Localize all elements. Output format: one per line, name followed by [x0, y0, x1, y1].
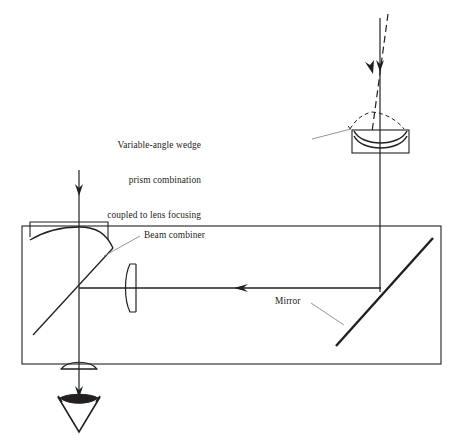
optical-diagram-figure: Variable-angle wedge prism combination c… [0, 0, 458, 443]
label-wedge-prism: Variable-angle wedge prism combination c… [61, 117, 201, 245]
leader-line-mirror [311, 303, 344, 325]
input-ray-right-dashed [365, 14, 388, 132]
enclosure-outline [22, 226, 441, 364]
label-mirror: Mirror [275, 296, 301, 308]
wedge-prism-lens-assembly [348, 112, 409, 153]
beam-combiner [33, 248, 113, 335]
label-wedge-prism-line1: Variable-angle wedge [61, 140, 201, 152]
eye-detector [58, 394, 100, 432]
label-beam-combiner: Beam combiner [144, 230, 205, 242]
label-wedge-prism-line3: coupled to lens focusing [61, 210, 201, 222]
cavity-ray-horizontal [79, 284, 381, 292]
input-ray-right-solid [376, 18, 384, 292]
leader-line-wedge-prism [312, 129, 351, 139]
fold-mirror [336, 238, 433, 346]
label-wedge-prism-line2: prism combination [61, 175, 201, 187]
